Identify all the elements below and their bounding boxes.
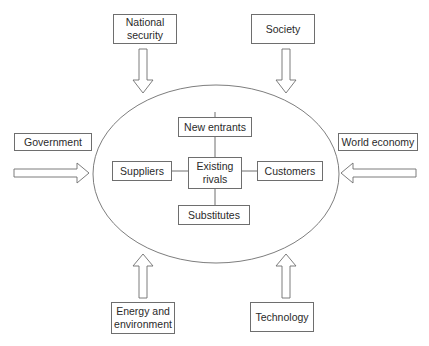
force-world-economy: World economy [338,133,418,151]
arrow-down-icon [133,49,153,93]
diagram-canvas: National security Society Government Wor… [0,0,429,346]
force-society: Society [251,14,315,44]
force-substitutes: Substitutes [178,205,250,225]
force-existing-rivals: Existing rivals [188,157,242,189]
force-government: Government [14,133,92,151]
force-new-entrants: New entrants [178,117,252,137]
arrow-down-icon [276,49,296,93]
force-technology: Technology [250,302,314,332]
force-customers: Customers [257,161,323,181]
arrow-right-icon [14,163,89,183]
force-suppliers: Suppliers [112,161,172,181]
arrow-up-icon [276,254,296,298]
arrow-left-icon [341,163,416,183]
force-energy-environment: Energy and environment [111,302,175,334]
force-national-security: National security [113,14,177,44]
arrow-up-icon [133,254,153,298]
